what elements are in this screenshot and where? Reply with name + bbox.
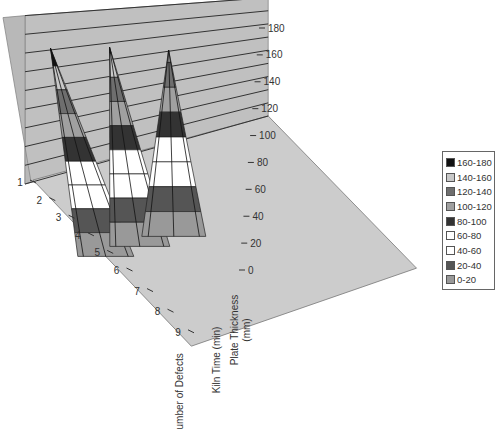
category-tick-label: 4 (75, 230, 81, 241)
legend-swatch (446, 217, 455, 226)
legend-swatch (446, 187, 455, 196)
legend-label: 140-160 (457, 172, 492, 183)
legend-swatch (446, 275, 455, 284)
category-tick-label: 1 (17, 177, 23, 188)
legend-swatch (446, 261, 455, 270)
series-axis-title: Number of Defects (174, 353, 185, 430)
series-axis-title: Plate Thickness (229, 295, 240, 365)
legend-label: 120-140 (457, 186, 492, 197)
category-tick-label: 2 (37, 195, 43, 206)
category-tick-label: 5 (94, 247, 100, 258)
z-tick-label: 0 (248, 265, 254, 276)
legend-item: 160-180 (446, 155, 492, 170)
legend-item: 80-100 (446, 214, 492, 229)
category-tick-label: 6 (114, 265, 120, 276)
z-tick-label: 80 (257, 157, 269, 168)
legend-item: 0-20 (446, 273, 492, 288)
series-axis-title: (mm) (241, 318, 252, 341)
legend-label: 40-60 (457, 245, 481, 256)
legend-item: 20-40 (446, 258, 492, 273)
legend-label: 20-40 (457, 260, 481, 271)
legend-item: 100-120 (446, 199, 492, 214)
z-tick-label: 20 (250, 238, 262, 249)
legend-item: 60-80 (446, 228, 492, 243)
z-tick-label: 100 (259, 130, 276, 141)
category-tick-label: 9 (175, 327, 181, 338)
legend-swatch (446, 231, 455, 240)
z-tick-label: 60 (255, 184, 267, 195)
z-tick-label: 40 (252, 211, 264, 222)
legend-item: 40-60 (446, 243, 492, 258)
legend-label: 0-20 (457, 274, 476, 285)
legend-swatch (446, 202, 455, 211)
category-tick-label: 7 (134, 286, 140, 297)
legend-label: 160-180 (457, 157, 492, 168)
category-tick-label: 8 (155, 306, 161, 317)
legend-label: 80-100 (457, 216, 487, 227)
legend: 160-180140-160120-140100-12080-10060-804… (442, 151, 495, 290)
z-tick-label: 140 (264, 76, 281, 87)
legend-label: 100-120 (457, 201, 492, 212)
category-tick-label: 3 (56, 212, 62, 223)
z-tick-label: 160 (266, 49, 283, 60)
legend-item: 120-140 (446, 184, 492, 199)
legend-item: 140-160 (446, 170, 492, 185)
legend-swatch (446, 158, 455, 167)
legend-swatch (446, 246, 455, 255)
series-axis-title: Kiln Time (min) (211, 327, 222, 394)
legend-label: 60-80 (457, 230, 481, 241)
z-tick-label: 180 (268, 23, 285, 34)
legend-swatch (446, 173, 455, 182)
z-tick-label: 120 (261, 103, 278, 114)
